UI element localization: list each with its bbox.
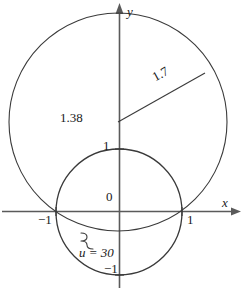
y-axis-label: y [127,5,133,18]
figure-canvas [0,0,247,291]
x-axis-arrowhead [231,208,241,216]
tick-label-y-positive-one: 1 [103,139,110,152]
x-axis-label: x [222,196,228,209]
center-height-label: 1.38 [60,111,83,124]
angle-label: u = 30 [79,246,114,259]
y-axis-arrowhead [116,3,124,14]
origin-label: 0 [106,190,113,203]
y-axis [116,3,124,288]
geometry-figure: 1.38 1.7 y x 0 1 −1 −1 1 u = 30 [0,0,247,291]
tick-label-x-negative-one: −1 [38,213,52,226]
tick-label-y-negative-one: −1 [104,262,118,275]
tick-label-x-positive-one: 1 [187,213,194,226]
